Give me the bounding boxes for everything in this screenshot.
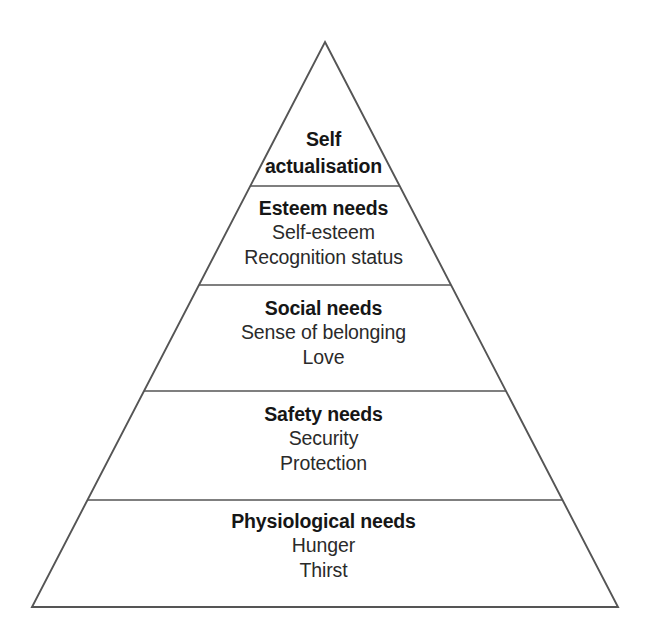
- tier-item-security: Security: [0, 426, 647, 451]
- tier-title-safety-needs: Safety needs: [0, 402, 647, 426]
- tier-item-protection: Protection: [0, 451, 647, 476]
- tier-item-thirst: Thirst: [0, 558, 647, 583]
- hierarchy-of-needs-pyramid: Self actualisation Esteem needs Self-est…: [0, 0, 647, 634]
- tier-title-physiological-needs: Physiological needs: [0, 509, 647, 533]
- tier-item-love: Love: [0, 345, 647, 370]
- tier-item-sense-of-belonging: Sense of belonging: [0, 320, 647, 345]
- tier-item-hunger: Hunger: [0, 533, 647, 558]
- pyramid-tier-esteem-needs[interactable]: Esteem needs Self-esteem Recognition sta…: [0, 196, 647, 270]
- tier-title-self-actualisation-line2: actualisation: [0, 153, 647, 180]
- tier-item-self-esteem: Self-esteem: [0, 220, 647, 245]
- pyramid-tier-social-needs[interactable]: Social needs Sense of belonging Love: [0, 296, 647, 370]
- tier-title-social-needs: Social needs: [0, 296, 647, 320]
- pyramid-tier-physiological-needs[interactable]: Physiological needs Hunger Thirst: [0, 509, 647, 583]
- tier-item-recognition-status: Recognition status: [0, 245, 647, 270]
- pyramid-tier-self-actualisation[interactable]: Self actualisation: [0, 126, 647, 180]
- tier-title-self-actualisation-line1: Self: [0, 126, 647, 153]
- pyramid-tier-safety-needs[interactable]: Safety needs Security Protection: [0, 402, 647, 476]
- tier-title-esteem-needs: Esteem needs: [0, 196, 647, 220]
